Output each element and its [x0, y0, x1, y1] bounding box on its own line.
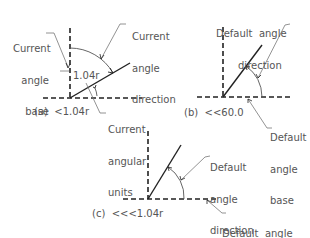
caption-c: (c) <<<1.04r [92, 208, 163, 219]
label-line: Current [13, 44, 49, 55]
label-line: angle [270, 165, 307, 176]
angle-arc [168, 167, 184, 199]
label-line: Default [210, 163, 254, 174]
angle-ray [148, 145, 181, 199]
label-line: direction [216, 61, 287, 72]
panel-a-geometry [43, 24, 142, 113]
label-line: Default [270, 133, 307, 144]
label-line: units [108, 188, 146, 199]
label-line: Default angle [222, 229, 293, 238]
label-line: Current [132, 32, 176, 43]
label-default-angle-direction: Default angle direction [216, 8, 287, 82]
label-line: angle [13, 76, 49, 87]
leader-direction [101, 24, 126, 59]
label-current-angle-direction: Current angle direction [132, 11, 176, 116]
label-line: base [270, 196, 307, 207]
label-current-angular-units: Current angular units [108, 104, 146, 209]
units-arc [95, 88, 97, 96]
leader-direction [181, 156, 210, 180]
caption-b: (b) <<60.0 [184, 107, 244, 118]
angle-value-label: 1.04r [73, 70, 99, 81]
label-line: angle [210, 195, 254, 206]
label-line: Current [108, 125, 146, 136]
units-arrow-icon [93, 85, 96, 88]
label-default-angle-base: Default angle base [270, 112, 307, 217]
label-default-angle-base-c: Default angle base [222, 208, 293, 238]
caption-a: (a) <1.04r [34, 106, 89, 117]
label-line: angle [132, 64, 176, 75]
label-line: Default angle [216, 29, 287, 40]
label-line: angular [108, 157, 146, 168]
arc-arrow-icon [108, 68, 113, 73]
leader-base [248, 99, 272, 128]
